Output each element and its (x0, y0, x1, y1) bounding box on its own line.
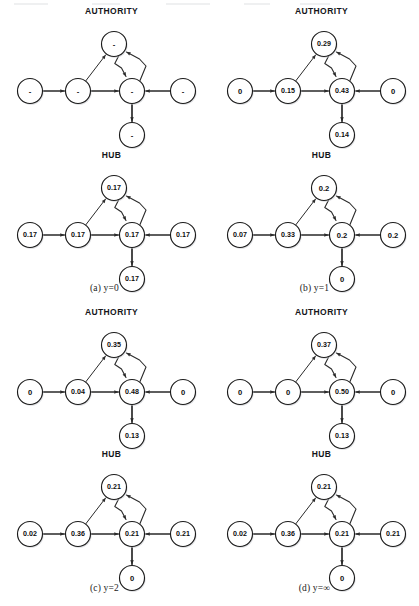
caption-d-index: (d) (299, 583, 311, 593)
node-bottom: 0.13 (120, 424, 146, 450)
caption-c-value: y=2 (104, 583, 119, 593)
node-value: 0 (238, 87, 242, 96)
panel-b-hub-graph: 0.070.330.20.20.20 (210, 148, 419, 296)
node-value: 0.13 (125, 432, 139, 440)
node-value: 0 (238, 388, 242, 397)
panel-d-hub-graph: 0.020.360.210.210.210 (210, 447, 419, 595)
node-top: 0.17 (102, 176, 128, 202)
node-top: - (102, 32, 128, 58)
graph-edges (43, 495, 170, 564)
node-bottom: 0.14 (330, 123, 356, 149)
node-value: 0.36 (281, 530, 295, 538)
panel-c-hub-graph: 0.020.360.210.210.210 (0, 447, 209, 595)
caption-b-index: (b) (300, 283, 312, 293)
panel-c-authority-graph: 00.040.350.4800.13 (0, 305, 209, 453)
node-center: 0.21 (330, 522, 356, 548)
node-value: 0.2 (337, 231, 348, 240)
node-value: 0.36 (71, 530, 85, 538)
node-top: 0.21 (312, 475, 338, 501)
node-center: 0.17 (120, 223, 146, 249)
graph-edges (43, 196, 170, 265)
node-right: 0 (381, 380, 407, 406)
node-right: 0 (381, 79, 407, 105)
node-left: 0.15 (276, 79, 302, 105)
node-far-left: 0.02 (228, 522, 254, 548)
node-value: 0.17 (125, 231, 139, 239)
node-far-left: 0.07 (228, 223, 254, 249)
node-value: 0.21 (317, 483, 331, 491)
node-center: - (120, 79, 146, 105)
node-far-left: 0.02 (18, 522, 44, 548)
node-value: 0.37 (317, 341, 331, 349)
node-value: 0.35 (107, 341, 121, 349)
node-value: 0.33 (281, 231, 295, 239)
node-value: 0.14 (335, 131, 349, 139)
node-left: 0.36 (66, 522, 92, 548)
panel-a-hub-graph: 0.170.170.170.170.170.17 (0, 148, 209, 296)
node-far-left: 0 (228, 380, 254, 406)
node-center: 0.48 (120, 380, 146, 406)
graph-edges (253, 495, 380, 564)
caption-a-value: y=0 (104, 283, 119, 293)
panel-c-authority: AUTHORITY 00.040.350.4800.13 (0, 305, 209, 453)
caption-c: (c) y=2 (0, 583, 209, 593)
panel-c-hub: HUB 0.020.360.210.210.210 (0, 447, 209, 595)
node-center: 0.2 (330, 223, 356, 249)
caption-b: (b) y=1 (210, 283, 419, 293)
node-value: 0.48 (125, 388, 139, 396)
node-value: 0.2 (388, 231, 399, 240)
node-value: 0.21 (176, 530, 190, 538)
caption-c-index: (c) (90, 583, 101, 593)
node-value: 0.02 (233, 530, 247, 538)
node-value: 0.17 (71, 231, 85, 239)
node-far-left: 0.17 (18, 223, 44, 249)
node-value: 0 (391, 388, 395, 397)
node-right: 0.21 (171, 522, 197, 548)
figure-sheet: AUTHORITY ------ HUB 0.170.170.170.170.1… (0, 0, 419, 606)
node-value: 0 (286, 388, 290, 397)
node-bottom: - (120, 123, 146, 149)
node-left: 0.36 (276, 522, 302, 548)
node-top: 0.35 (102, 333, 128, 359)
node-value: 0.07 (233, 231, 247, 239)
node-bottom: 0.13 (330, 424, 356, 450)
panel-d-authority: AUTHORITY 000.370.5000.13 (210, 305, 419, 453)
node-top: 0.29 (312, 32, 338, 58)
caption-a-index: (a) (90, 283, 101, 293)
node-value: 0.50 (335, 388, 349, 396)
node-value: 0.43 (335, 87, 349, 95)
node-right: 0.17 (171, 223, 197, 249)
node-top: 0.21 (102, 475, 128, 501)
panel-b-authority: AUTHORITY 00.150.290.4300.14 (210, 4, 419, 152)
caption-b-value: y=1 (314, 283, 329, 293)
node-value: 0.15 (281, 87, 295, 95)
node-value: 0.21 (335, 530, 349, 538)
node-value: 0 (28, 388, 32, 397)
node-far-left: 0 (18, 380, 44, 406)
node-value: 0.21 (107, 483, 121, 491)
node-top: 0.2 (312, 176, 338, 202)
node-left: 0.33 (276, 223, 302, 249)
node-value: 0.21 (125, 530, 139, 538)
node-far-left: - (18, 79, 44, 105)
node-value: 0.02 (23, 530, 37, 538)
node-left: 0 (276, 380, 302, 406)
node-value: 0.17 (23, 231, 37, 239)
graph-edges (43, 353, 170, 422)
node-right: - (171, 79, 197, 105)
panel-a-hub: HUB 0.170.170.170.170.170.17 (0, 148, 209, 296)
node-left: 0.17 (66, 223, 92, 249)
graph-edges (43, 52, 170, 121)
node-value: 0.17 (176, 231, 190, 239)
node-value: 0.29 (317, 40, 331, 48)
node-center: 0.21 (120, 522, 146, 548)
node-value: 0.2 (319, 184, 330, 193)
graph-edges (253, 52, 380, 121)
node-right: 0.21 (381, 522, 407, 548)
node-right: 0 (171, 380, 197, 406)
caption-d: (d) y=∞ (210, 583, 419, 593)
node-value: 0 (130, 574, 134, 583)
node-value: 0.13 (335, 432, 349, 440)
caption-a: (a) y=0 (0, 283, 209, 293)
node-left: - (66, 79, 92, 105)
